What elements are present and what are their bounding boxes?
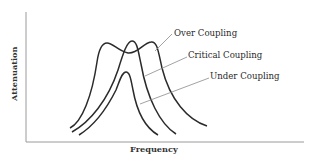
diagram-graphics (0, 0, 312, 163)
critical-coupling-label: Critical Coupling (188, 51, 262, 60)
coupling-attenuation-diagram: Over Coupling Critical Coupling Under Co… (0, 0, 312, 163)
x-axis-label: Frequency (130, 145, 178, 153)
under-coupling-label: Under Coupling (210, 72, 280, 81)
over-coupling-label: Over Coupling (174, 29, 237, 38)
critical-coupling-leader (145, 57, 187, 76)
over-coupling-leader (155, 34, 172, 51)
under-coupling-curve (79, 72, 158, 135)
under-coupling-leader (140, 78, 209, 104)
y-axis-label: Attenuation (10, 47, 18, 102)
critical-coupling-curve (72, 41, 176, 134)
